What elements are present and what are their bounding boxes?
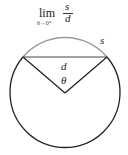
label-d: d [61, 60, 67, 72]
radius-left [23, 57, 65, 93]
circle-diagram: s d θ [0, 0, 128, 155]
label-s: s [100, 34, 104, 46]
arc-s [23, 38, 107, 57]
label-theta: θ [61, 74, 67, 86]
radius-right [65, 57, 107, 93]
